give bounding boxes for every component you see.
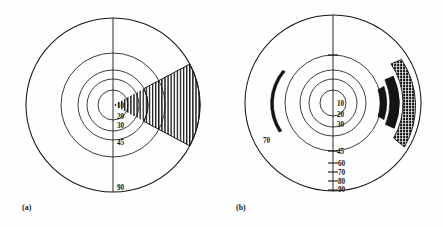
panel-caption-b: (b): [236, 203, 246, 212]
panel-b: 10 20 30 45 60 70 80 90 70 (b): [222, 0, 443, 227]
panel-b-plot: 10 20 30 45 60 70 80 90 70: [222, 0, 443, 227]
ring-label-10-a: 10: [117, 102, 125, 110]
ring-label-60-b: 60: [338, 160, 346, 168]
defect-left-crescent-b: [271, 71, 286, 133]
ring-label-30-b: 30: [337, 121, 345, 129]
ring-label-20-a: 20: [117, 113, 125, 121]
ring-label-30-a: 30: [117, 122, 125, 130]
ring-label-90-a: 90: [117, 184, 125, 192]
defect-inner-band-b: [378, 86, 386, 119]
panel-a: 10 20 30 45 90 (a): [0, 0, 222, 227]
defect-arc-label-70-b: 70: [263, 137, 271, 145]
ring-label-80-b: 80: [338, 178, 346, 186]
panel-a-plot: 10 20 30 45 90: [0, 0, 222, 227]
ring-label-20-b: 20: [337, 111, 345, 119]
defect-middle-band-b: [385, 76, 399, 128]
ring-label-45-a: 45: [117, 139, 125, 147]
ring-label-45-b: 45: [337, 148, 345, 156]
ring-label-70-b: 70: [338, 169, 346, 177]
ring-label-10-b: 10: [337, 100, 345, 108]
ring-label-90-b: 90: [338, 186, 346, 194]
panel-caption-a: (a): [22, 203, 31, 212]
figure-root: 10 20 30 45 90 (a): [0, 0, 443, 227]
